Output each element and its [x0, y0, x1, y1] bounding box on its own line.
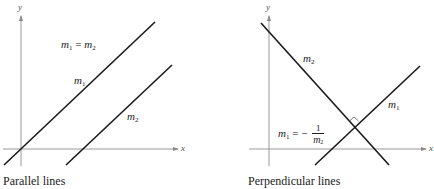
- perpendicular-slope-relation: m1 = − 1 m2: [278, 124, 324, 145]
- relation-fraction: 1 m2: [312, 124, 324, 145]
- parallel-x-axis-label: x: [181, 144, 185, 153]
- label-sub: 1: [82, 80, 86, 88]
- den-sub: 2: [320, 139, 323, 145]
- parallel-y-axis-label: y: [18, 3, 22, 12]
- relation-lhs-var: m: [61, 38, 69, 50]
- label-sub: 2: [135, 116, 139, 124]
- label-var: m: [74, 74, 82, 86]
- relation-rhs-var: m: [84, 38, 92, 50]
- perpendicular-line-m1: [315, 66, 420, 165]
- perpendicular-x-axis-label: x: [429, 144, 433, 153]
- diagram-canvas: [0, 0, 434, 189]
- right-angle-marker: [350, 117, 359, 121]
- label-var: m: [303, 52, 311, 64]
- relation-operator: =: [75, 38, 81, 50]
- relation-lhs-sub: 1: [286, 133, 290, 141]
- perpendicular-panel: [249, 16, 426, 166]
- perpendicular-line-m2-label: m2: [303, 53, 314, 66]
- parallel-line-m2-label: m2: [127, 111, 138, 124]
- label-sub: 2: [311, 58, 315, 66]
- label-var: m: [127, 110, 135, 122]
- parallel-slope-relation: m1 = m2: [61, 39, 96, 52]
- fraction-numerator: 1: [315, 124, 322, 133]
- relation-rhs-sub: 2: [92, 44, 96, 52]
- fraction-denominator: m2: [312, 133, 324, 145]
- label-var: m: [388, 98, 396, 110]
- perpendicular-line-m1-label: m1: [388, 99, 399, 112]
- perpendicular-caption: Perpendicular lines: [248, 175, 340, 187]
- relation-lhs-var: m: [278, 127, 286, 139]
- parallel-caption: Parallel lines: [3, 175, 65, 187]
- parallel-line-m1-label: m1: [74, 75, 85, 88]
- label-sub: 1: [396, 104, 400, 112]
- perpendicular-y-axis-label: y: [266, 3, 270, 12]
- relation-operator: = −: [292, 127, 307, 139]
- relation-lhs-sub: 1: [69, 44, 73, 52]
